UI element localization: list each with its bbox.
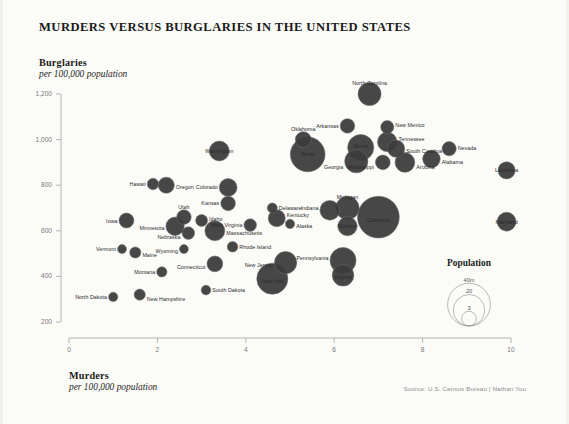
bubble[interactable]: [320, 200, 340, 220]
bubble-label: Tennessee: [398, 136, 424, 142]
bubble-label: Iowa: [106, 218, 117, 224]
legend-title: Population: [423, 258, 515, 268]
x-axis-label-sub: per 100,000 population: [69, 382, 157, 392]
bubble[interactable]: [157, 267, 167, 277]
legend-value-label: 40m: [449, 277, 489, 283]
legend-value-label: 3: [449, 305, 489, 311]
bubble-label: Michigan: [337, 194, 359, 200]
bubble[interactable]: [109, 292, 118, 301]
x-axis-tick: 10: [499, 346, 523, 353]
bubble[interactable]: [340, 119, 355, 134]
y-axis-tick: 600: [23, 227, 52, 234]
x-axis-tick: 6: [322, 346, 346, 353]
bubble-label: Georgia: [324, 164, 343, 170]
bubble[interactable]: [274, 252, 296, 274]
bubble-label: Arizona: [416, 164, 434, 170]
bubble-label: Colorado: [196, 184, 218, 190]
bubble-label: Rhode Island: [239, 244, 271, 250]
bubble[interactable]: [285, 219, 294, 228]
y-axis-label-main: Burglaries: [39, 57, 127, 68]
y-axis-tick: 1,200: [23, 90, 52, 97]
bubble-label: Delaware: [279, 205, 302, 211]
bubble-label: Nevada: [458, 145, 477, 151]
y-axis-label-sub: per 100,000 population: [39, 69, 127, 79]
y-axis-tick: 400: [23, 272, 52, 279]
bubble-label: Alaska: [296, 223, 312, 229]
bubble-label: Wyoming: [156, 248, 178, 254]
bubble-label: South Carolina: [406, 148, 442, 154]
bubble[interactable]: [179, 245, 188, 254]
x-axis-label: Murders per 100,000 population: [69, 370, 157, 392]
bubble[interactable]: [442, 142, 456, 156]
bubble-label: New Mexico: [395, 122, 424, 128]
bubble-label: Massachusetts: [226, 230, 262, 236]
legend-value-label: 20: [449, 288, 489, 294]
bubble-label: California: [367, 217, 390, 223]
bubble[interactable]: [119, 213, 134, 228]
bubble-label: North Carolina: [352, 80, 387, 86]
bubble-label: Connecticut: [177, 264, 206, 270]
bubble-label: Texas: [301, 151, 315, 157]
bubble-label: West Virginia: [211, 222, 243, 228]
bubble[interactable]: [227, 241, 238, 252]
bubble-label: Oregon: [176, 184, 194, 190]
x-axis-tick: 4: [234, 346, 258, 353]
bubble-label: South Dakota: [212, 287, 245, 293]
bubble-label: North Dakota: [75, 294, 107, 300]
bubble-label: Indiana: [301, 205, 319, 211]
bubble-label: Pennsylvania: [296, 255, 328, 261]
bubble-label: Oklahoma: [291, 126, 316, 132]
x-axis-tick: 2: [145, 346, 169, 353]
bubble-label: Washington: [205, 148, 233, 154]
bubble[interactable]: [158, 177, 174, 193]
bubble[interactable]: [207, 256, 223, 272]
bubble-label: Missouri: [337, 223, 357, 229]
legend-circle: [462, 311, 477, 326]
y-axis-tick: 200: [23, 318, 52, 325]
bubble-label: Virginia: [334, 274, 352, 280]
bubble[interactable]: [381, 121, 394, 134]
bubble[interactable]: [147, 178, 158, 189]
bubble[interactable]: [375, 155, 390, 170]
x-axis-tick: 0: [57, 346, 81, 353]
y-axis-tick: 800: [23, 181, 52, 188]
bubble-label: Utah: [178, 204, 189, 210]
bubble-label: Hawaii: [130, 181, 146, 187]
page-title: MURDERS VERSUS BURGLARIES IN THE UNITED …: [39, 20, 411, 35]
bubble-label: Kentucky: [287, 212, 309, 218]
bubble[interactable]: [177, 210, 192, 225]
bubble-label: Kansas: [201, 200, 219, 206]
bubble[interactable]: [196, 215, 208, 227]
bubble-label: New Jersey: [245, 262, 273, 268]
x-axis-tick: 8: [411, 346, 435, 353]
bubble-label: Minnesota: [140, 225, 165, 231]
bubble[interactable]: [130, 247, 141, 258]
bubble-label: Nebraska: [157, 234, 180, 240]
bubble-label: Louisiana: [495, 167, 518, 173]
bubble[interactable]: [134, 289, 145, 300]
bubble-label: Montana: [134, 269, 155, 275]
bubble-label: Mississippi: [348, 164, 374, 170]
y-axis-label: Burglaries per 100,000 population: [39, 57, 127, 79]
source-credit: Source: U.S. Census Bureau | Nathan You: [404, 385, 526, 392]
bubble-label: New York: [261, 278, 284, 284]
bubble[interactable]: [201, 285, 211, 295]
bubble[interactable]: [295, 132, 311, 148]
bubble-label: Vermont: [96, 246, 116, 252]
bubble-label: Illinois: [353, 143, 368, 149]
bubble-label: New Hampshire: [147, 296, 185, 302]
bubble[interactable]: [182, 227, 195, 240]
bubble[interactable]: [118, 245, 127, 254]
bubble[interactable]: [221, 196, 236, 211]
bubble-label: Maryland: [496, 219, 518, 225]
bubble-label: Alabama: [442, 159, 463, 165]
legend: Population 40m203: [423, 258, 515, 330]
x-axis-label-main: Murders: [69, 370, 157, 381]
bubble-label: Arkansas: [316, 123, 338, 129]
bubble-label: Idaho: [209, 216, 223, 222]
bubble[interactable]: [387, 140, 404, 157]
bubble[interactable]: [219, 179, 237, 197]
bubble[interactable]: [267, 203, 277, 213]
chart-page: MURDERS VERSUS BURGLARIES IN THE UNITED …: [0, 0, 569, 424]
y-axis-tick: 1,000: [23, 136, 52, 143]
